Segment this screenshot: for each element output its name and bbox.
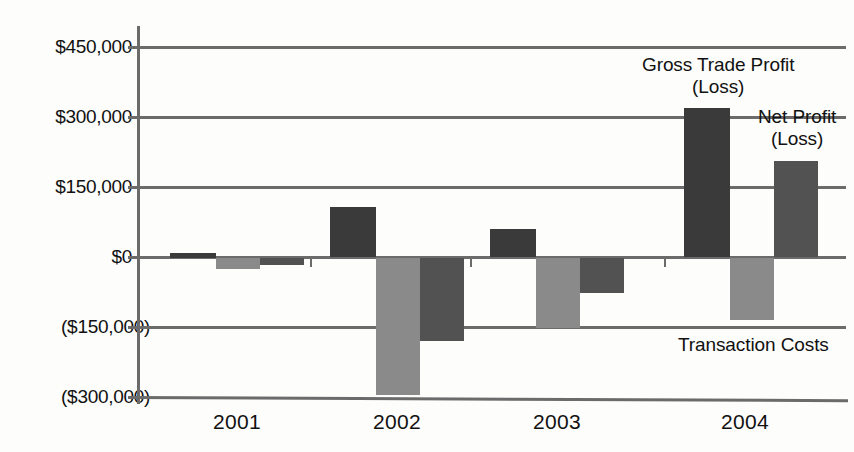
annotation-gross-line1: Gross Trade Profit — [642, 54, 794, 75]
x-axis-label-2002: 2002 — [352, 410, 442, 434]
bar-2003-net — [580, 258, 624, 293]
bar-2001-transaction — [216, 258, 260, 269]
bar-2002-gross — [330, 207, 376, 257]
annotation-transaction-costs: Transaction Costs — [678, 334, 829, 356]
y-axis-label-300000: $300,000 — [55, 106, 132, 128]
x-axis-label-2004: 2004 — [700, 410, 790, 434]
bar-2003-gross — [490, 229, 536, 257]
bar-2002-transaction — [376, 258, 420, 395]
bar-2004-gross — [684, 108, 730, 257]
gridline-450000 — [128, 46, 846, 49]
x-tick-2 — [470, 257, 472, 267]
annotation-net-line2: (Loss) — [758, 128, 836, 150]
x-axis-label-2003: 2003 — [512, 410, 602, 434]
x-tick-3 — [664, 257, 666, 267]
annotation-gross-line2: (Loss) — [642, 76, 794, 98]
y-axis-label-450000: $450,000 — [55, 36, 132, 58]
x-axis-line — [128, 396, 848, 402]
y-axis-label-150000: $150,000 — [55, 176, 132, 198]
annotation-gross-trade-profit: Gross Trade Profit (Loss) — [642, 54, 794, 98]
annotation-net-line1: Net Profit — [758, 106, 836, 127]
bar-2001-net — [260, 258, 304, 265]
bar-2004-transaction — [730, 258, 774, 320]
bar-chart: $450,000 $300,000 $150,000 $0 ($150,000)… — [0, 0, 854, 452]
gridline-150000 — [128, 186, 846, 189]
gridline-300000 — [128, 116, 846, 119]
x-axis-label-2001: 2001 — [192, 410, 282, 434]
y-axis-line — [137, 26, 140, 404]
bar-2004-net — [774, 161, 818, 257]
bar-2001-gross — [170, 253, 216, 258]
annotation-net-profit: Net Profit (Loss) — [758, 106, 836, 150]
bar-2003-transaction — [536, 258, 580, 328]
bar-2002-net — [420, 258, 464, 341]
x-tick-1 — [310, 257, 312, 267]
gridline-neg150000 — [128, 326, 846, 329]
